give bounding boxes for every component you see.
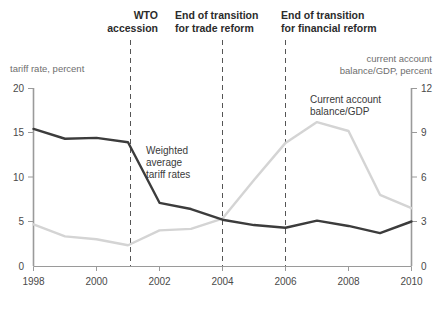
left-axis-label-20: 20	[13, 83, 25, 94]
annotation-financial-reform-line2: for financial reform	[281, 22, 377, 34]
annotation-trade-reform-line2: for trade reform	[175, 22, 254, 34]
series-label-current-account-line1: Current account	[310, 94, 381, 105]
right-axis-unit-label-line1: current account	[367, 53, 433, 64]
x-axis-label-2010: 2010	[400, 276, 423, 287]
right-axis-label-12: 12	[421, 83, 433, 94]
x-axis-label-2002: 2002	[148, 276, 171, 287]
x-axis-label-2000: 2000	[85, 276, 108, 287]
x-axis-label-2004: 2004	[211, 276, 234, 287]
left-axis-label-15: 15	[13, 127, 25, 138]
x-axis-label-2006: 2006	[274, 276, 297, 287]
left-axis-label-5: 5	[18, 216, 24, 227]
chart-container: WTO accession End of transition for trad…	[0, 0, 442, 309]
series-label-current-account-line2: balance/GDP	[310, 106, 370, 117]
right-axis-unit-label-line2: balance/GDP, percent	[340, 65, 433, 76]
x-axis-label-1998: 1998	[22, 276, 45, 287]
annotation-wto-line1: WTO	[134, 9, 158, 21]
right-axis-label-9: 9	[421, 127, 427, 138]
right-axis-label-0: 0	[421, 261, 427, 272]
left-axis-label-0: 0	[18, 261, 24, 272]
right-axis-label-6: 6	[421, 172, 427, 183]
right-axis-label-3: 3	[421, 216, 427, 227]
annotation-trade-reform-line1: End of transition	[175, 9, 258, 21]
left-axis-unit-label: tariff rate, percent	[10, 63, 85, 74]
x-axis-label-2008: 2008	[337, 276, 360, 287]
annotation-financial-reform-line1: End of transition	[281, 9, 364, 21]
series-label-tariff-line3: tariff rates	[146, 169, 190, 180]
series-label-tariff-line2: average	[146, 157, 183, 168]
annotation-wto-line2: accession	[107, 22, 158, 34]
dual-axis-line-chart: WTO accession End of transition for trad…	[0, 0, 442, 309]
left-axis-label-10: 10	[13, 172, 25, 183]
series-label-tariff-line1: Weighted	[146, 145, 188, 156]
